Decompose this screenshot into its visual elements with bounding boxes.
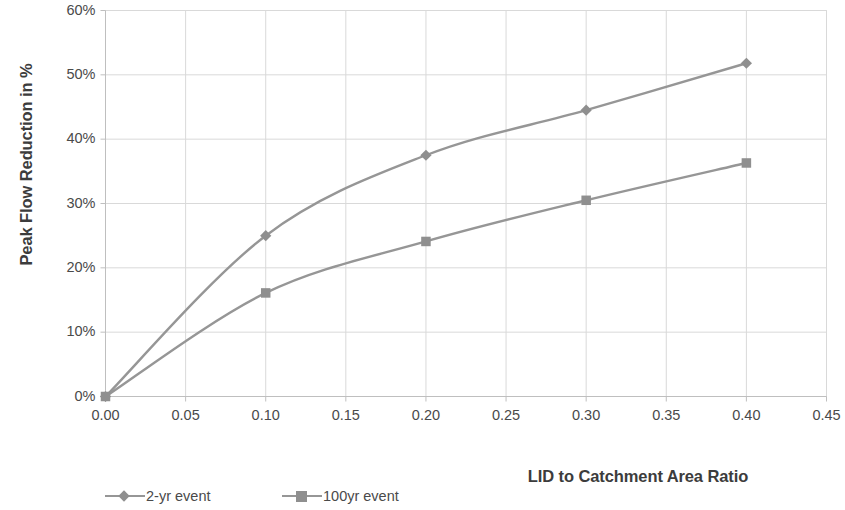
plot-area (0, 0, 845, 510)
square-marker-icon (282, 489, 322, 503)
data-point-marker (101, 392, 111, 402)
y-tick-label: 10% (40, 323, 96, 339)
horizontal-gridlines (106, 11, 827, 397)
legend-label: 100yr event (323, 488, 399, 504)
data-point-marker (261, 288, 271, 298)
x-tick-label: 0.30 (551, 407, 621, 423)
x-tick-label: 0.15 (311, 407, 381, 423)
x-axis-ticks (106, 397, 827, 402)
legend-label: 2-yr event (146, 488, 210, 504)
data-point-marker (742, 158, 752, 168)
x-tick-label: 0.25 (471, 407, 541, 423)
y-tick-label: 0% (40, 388, 96, 404)
x-tick-label: 0.35 (631, 407, 701, 423)
data-point-marker (581, 105, 592, 116)
legend-item-0[interactable]: 2-yr event (105, 484, 210, 508)
x-axis-title: LID to Catchment Area Ratio (455, 467, 821, 486)
data-point-marker (741, 58, 752, 69)
chart-container: Peak Flow Reduction in % 0%10%20%30%40%5… (0, 0, 845, 510)
x-tick-label: 0.45 (792, 407, 845, 423)
y-tick-label: 30% (40, 195, 96, 211)
legend-item-1[interactable]: 100yr event (282, 484, 399, 508)
legend-marker (118, 490, 129, 501)
y-tick-label: 40% (40, 130, 96, 146)
x-tick-label: 0.10 (231, 407, 301, 423)
legend-marker (296, 491, 307, 502)
x-tick-label: 0.05 (151, 407, 221, 423)
x-tick-label: 0.20 (391, 407, 461, 423)
y-tick-label: 60% (40, 2, 96, 18)
data-point-marker (420, 150, 431, 161)
y-tick-label: 50% (40, 66, 96, 82)
data-point-marker (421, 237, 431, 247)
data-point-marker (581, 196, 591, 206)
x-tick-label: 0.40 (711, 407, 781, 423)
y-tick-label: 20% (40, 259, 96, 275)
diamond-marker-icon (105, 489, 145, 503)
x-tick-label: 0.00 (71, 407, 141, 423)
y-axis-ticks (101, 11, 106, 397)
